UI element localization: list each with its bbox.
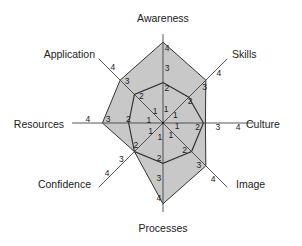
tick-label: 4 (165, 43, 170, 53)
tick-label: 1 (146, 115, 151, 125)
tick-label: 3 (157, 173, 162, 183)
axis-label-culture: Culture (246, 118, 280, 130)
axis-label-confidence: Confidence (38, 178, 91, 190)
center-point (162, 122, 164, 124)
tick-label: 2 (188, 96, 193, 106)
axis-label-processes: Processes (138, 222, 187, 234)
tick-label: 1 (148, 126, 153, 136)
axis-label-skills: Skills (232, 48, 257, 60)
tick-label: 3 (119, 154, 124, 164)
axis-label-application: Application (44, 48, 96, 60)
tick-label: 3 (165, 63, 170, 73)
tick-label: 3 (197, 160, 202, 170)
axes (72, 34, 254, 212)
tick-label: 2 (134, 140, 139, 150)
tick-label: 1 (157, 132, 162, 142)
tick-label: 4 (236, 122, 241, 132)
tick-label: 4 (157, 193, 162, 203)
tick-label: 4 (110, 62, 115, 72)
tick-label: 4 (86, 114, 91, 124)
tick-label: 3 (125, 76, 130, 86)
tick-label: 3 (215, 122, 220, 132)
tick-label: 2 (126, 114, 131, 124)
tick-label: 2 (195, 122, 200, 132)
tick-label: 1 (168, 130, 173, 140)
tick-label: 1 (173, 110, 178, 120)
axis-label-image: Image (236, 178, 265, 190)
tick-label: 1 (153, 106, 158, 116)
tick-label: 4 (105, 168, 110, 178)
radar-chart: 12341234123412341234123412341234 Awarene… (0, 0, 302, 246)
axis-label-resources: Resources (14, 118, 64, 130)
tick-label: 2 (157, 153, 162, 163)
tick-label: 3 (106, 114, 111, 124)
tick-label: 2 (139, 91, 144, 101)
tick-label: 4 (217, 68, 222, 78)
tick-label: 1 (164, 104, 169, 114)
tick-label: 1 (175, 121, 180, 131)
tick-label: 2 (182, 145, 187, 155)
axis-label-awareness: Awareness (137, 12, 189, 24)
tick-label: 3 (202, 82, 207, 92)
tick-label: 2 (164, 83, 169, 93)
tick-label: 4 (211, 174, 216, 184)
